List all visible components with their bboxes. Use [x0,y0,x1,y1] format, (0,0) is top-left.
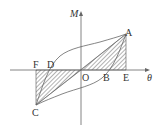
point-label-f: F [33,59,39,70]
y-axis-label: M [69,8,79,19]
x-axis-label: θ [147,72,152,83]
y-axis-arrow-icon [79,11,83,16]
point-label-a: A [125,27,133,38]
point-label-d: D [47,59,54,70]
point-label-b: B [103,72,110,83]
point-label-o: O [82,72,89,83]
point-label-c: C [32,107,39,118]
hysteresis-diagram: M θ A B C D E F O [0,0,161,131]
point-label-e: E [123,72,129,83]
